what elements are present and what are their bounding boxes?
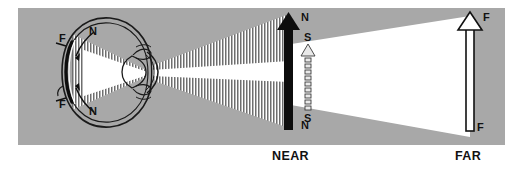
label-far-top: F — [483, 12, 490, 23]
label-retina-near-bottom: N — [89, 106, 97, 117]
label-small-bottom: S — [304, 113, 311, 124]
zonule-upper — [136, 45, 151, 47]
label-near-top: N — [301, 12, 309, 23]
label-small-top: S — [304, 32, 311, 43]
figure-canvas — [0, 0, 526, 169]
caption-near: NEAR — [272, 150, 309, 163]
label-far-bottom: F — [477, 122, 484, 133]
label-retina-near-top: N — [89, 26, 97, 37]
optics-figure: F F N N N N S S F F NEAR FAR — [0, 0, 526, 169]
optic-nerve-stub — [58, 86, 63, 96]
label-retina-far-top: F — [59, 33, 66, 44]
caption-far: FAR — [455, 150, 481, 163]
label-retina-far-bottom: F — [59, 99, 66, 110]
intraocular-rays — [72, 34, 146, 110]
